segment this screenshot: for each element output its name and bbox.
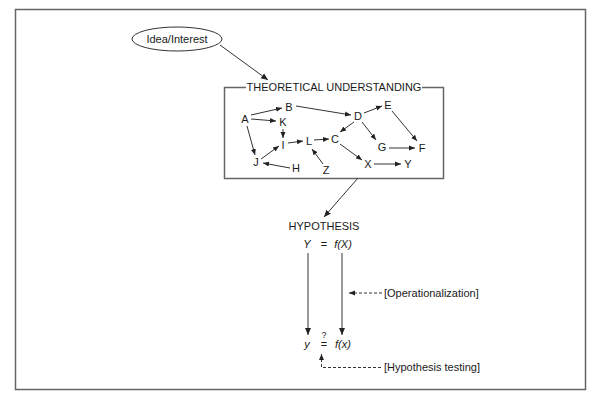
theoretical-rhs: f(X)	[334, 238, 352, 250]
node-H: H	[292, 162, 300, 174]
edge-L-C	[314, 139, 329, 140]
idea-interest-label: Idea/Interest	[146, 33, 207, 45]
edge-Z-L	[312, 149, 323, 164]
edge-A-K	[251, 119, 276, 121]
empirical-eq: =	[321, 338, 327, 350]
edge-I-L	[288, 141, 303, 143]
node-Z: Z	[323, 164, 330, 176]
edge-D-G	[362, 122, 376, 140]
node-L: L	[306, 135, 312, 147]
edge-A-B	[251, 108, 282, 115]
edge-E-F	[392, 111, 417, 141]
hypothesis-testing-label: [Hypothesis testing]	[384, 361, 480, 373]
node-D: D	[354, 110, 362, 122]
arrow-idea-to-theory	[220, 45, 268, 80]
edge-A-J	[247, 126, 255, 155]
node-F: F	[419, 142, 426, 154]
edge-D-C	[340, 122, 354, 132]
theory-box-title: THEORETICAL UNDERSTANDING	[247, 81, 422, 93]
operationalization-annotation: [Operationalization]	[349, 287, 479, 299]
edge-D-E	[364, 106, 382, 113]
hypothesis-testing-annotation: [Hypothesis testing]	[322, 354, 481, 373]
edge-B-D	[296, 106, 351, 115]
edge-C-X	[340, 144, 362, 160]
node-C: C	[331, 133, 339, 145]
arrow-theory-to-hypothesis	[324, 178, 358, 217]
node-G: G	[378, 141, 387, 153]
empirical-lhs: y	[303, 338, 311, 350]
hypothesis-testing-arrow	[322, 354, 382, 368]
node-J: J	[253, 156, 259, 168]
hypothesis-title: HYPOTHESIS	[289, 220, 360, 232]
theoretical-lhs: Y	[303, 238, 311, 250]
empirical-rhs: f(x)	[335, 338, 351, 350]
idea-interest-node: Idea/Interest	[132, 27, 222, 51]
node-A: A	[241, 113, 249, 125]
edge-H-J	[263, 163, 290, 168]
research-process-diagram: Idea/Interest THEORETICAL UNDERSTANDING …	[0, 0, 599, 399]
hypothesis-block: HYPOTHESIS Y = f(X) y ? = f(x)	[289, 220, 360, 350]
node-K: K	[279, 116, 287, 128]
node-Y: Y	[404, 158, 412, 170]
node-I: I	[281, 139, 284, 151]
edge-J-I	[261, 146, 279, 159]
node-E: E	[384, 99, 391, 111]
node-X: X	[364, 158, 372, 170]
theoretical-eq: =	[321, 238, 327, 250]
node-B: B	[285, 101, 292, 113]
theory-box: THEORETICAL UNDERSTANDING A B K I J H L …	[225, 81, 444, 179]
outer-frame	[16, 10, 586, 390]
operationalization-label: [Operationalization]	[384, 287, 479, 299]
